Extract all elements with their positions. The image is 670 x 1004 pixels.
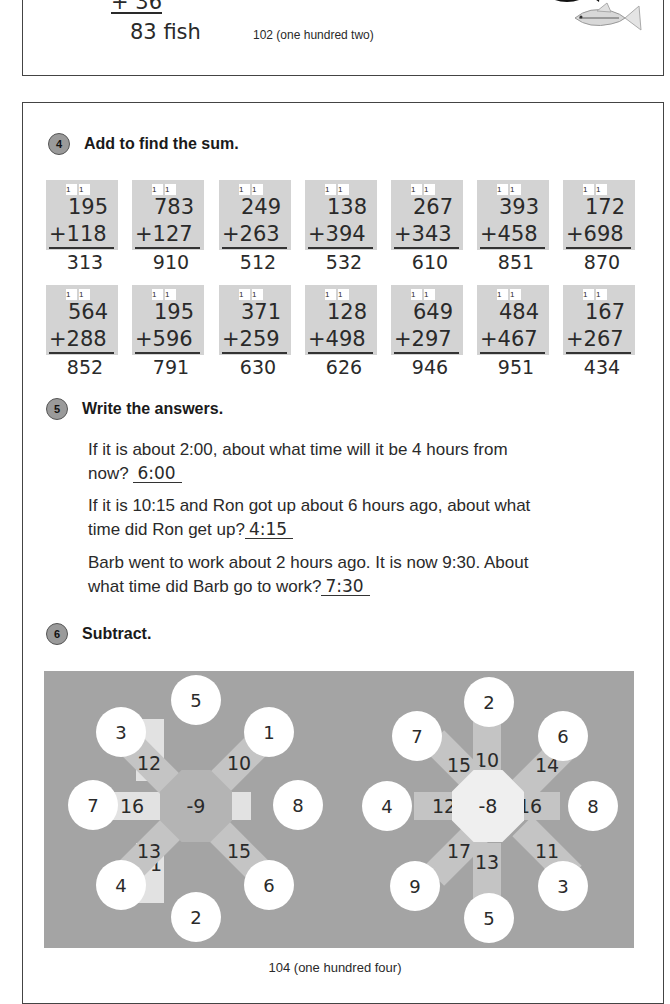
- total-value: 83 fish: [130, 20, 201, 44]
- answer-blank[interactable]: 4:15: [245, 520, 293, 539]
- word-problem-1: If it is about 2:00, about what time wil…: [88, 438, 508, 486]
- spoke-nw-value: 12: [137, 752, 161, 774]
- sum-line: [566, 247, 631, 249]
- sum-line: [394, 352, 459, 354]
- carry-digit: 1: [596, 184, 607, 195]
- addend-bottom: +498: [308, 327, 366, 351]
- sum-answer[interactable]: 791: [132, 356, 204, 378]
- sum-answer[interactable]: 852: [46, 356, 118, 378]
- sum-line: [394, 247, 459, 249]
- petal-w[interactable]: 4: [362, 781, 412, 831]
- petal-n[interactable]: 2: [464, 677, 514, 727]
- sum-answer[interactable]: 851: [477, 251, 549, 273]
- addend-value: + 36: [111, 0, 162, 14]
- carry-digit: 1: [252, 184, 263, 195]
- carry-digit: 1: [152, 184, 163, 195]
- sum-answer[interactable]: 313: [46, 251, 118, 273]
- carry-digit: 1: [66, 289, 77, 300]
- carry-digit: 1: [424, 184, 435, 195]
- addend-bottom: +118: [49, 222, 107, 246]
- addend-bottom: +267: [566, 327, 624, 351]
- spoke-se-value: 11: [535, 840, 559, 862]
- sum-answer[interactable]: 532: [305, 251, 377, 273]
- tetra-fish-icon: [571, 2, 646, 34]
- petal-n[interactable]: 5: [171, 675, 221, 725]
- addition-problem: 11 128 +498 626: [305, 285, 377, 378]
- answer-blank[interactable]: 6:00: [133, 464, 181, 483]
- exercise-5-header: 5 Write the answers.: [46, 398, 223, 420]
- addend-bottom: +698: [566, 222, 624, 246]
- carry-digit: 1: [338, 289, 349, 300]
- carry-digit: 1: [583, 289, 594, 300]
- sum-line: [135, 247, 200, 249]
- petal-w[interactable]: 7: [68, 780, 118, 830]
- addend-top: 649: [413, 300, 453, 324]
- page-number-bottom: 104 (one hundred four): [0, 960, 670, 975]
- sum-line: [566, 352, 631, 354]
- addition-problem: 11 393 +458 851: [477, 180, 549, 273]
- carry-digit: 1: [338, 184, 349, 195]
- addition-problem: 11 267 +343 610: [391, 180, 463, 273]
- question-text: now?: [88, 464, 129, 483]
- sum-line: [480, 352, 545, 354]
- carry-digit: 1: [152, 289, 163, 300]
- spoke-ne-value: 10: [227, 752, 251, 774]
- sum-answer[interactable]: 610: [391, 251, 463, 273]
- sum-answer[interactable]: 434: [563, 356, 635, 378]
- addition-problem: 11 371 +259 630: [219, 285, 291, 378]
- petal-ne[interactable]: 1: [244, 707, 294, 757]
- answer-blank[interactable]: 7:30: [321, 577, 369, 596]
- sum-answer[interactable]: 951: [477, 356, 549, 378]
- page-number-top: 102 (one hundred two): [253, 28, 374, 42]
- addend-top: 371: [241, 300, 281, 324]
- exercise-4-badge: 4: [48, 133, 70, 155]
- carry-digit: 1: [424, 289, 435, 300]
- subtraction-wheel-2: 10 13 12 16 15 14 17 11 -8 2 6 8 3 5 9 4…: [340, 671, 635, 948]
- petal-sw[interactable]: 4: [96, 860, 146, 910]
- addend-top: 172: [585, 195, 625, 219]
- sum-answer[interactable]: 870: [563, 251, 635, 273]
- addend-top: 267: [413, 195, 453, 219]
- question-text: If it is about 2:00, about what time wil…: [88, 438, 508, 462]
- carry-digit: 1: [497, 184, 508, 195]
- sum-answer[interactable]: 946: [391, 356, 463, 378]
- petal-s[interactable]: 2: [171, 892, 221, 942]
- subtraction-panel: 14 11 16 17 12 10 13 15 -9 5 1 8 6 2 4 7…: [44, 671, 634, 948]
- addition-problem: 11 484 +467 951: [477, 285, 549, 378]
- petal-ne[interactable]: 6: [538, 711, 588, 761]
- petal-sw[interactable]: 9: [390, 861, 440, 911]
- addition-problem: 11 195 +596 791: [132, 285, 204, 378]
- petal-s[interactable]: 5: [464, 893, 514, 943]
- addition-problem: 11 564 +288 852: [46, 285, 118, 378]
- addend-top: 128: [327, 300, 367, 324]
- petal-se[interactable]: 3: [538, 861, 588, 911]
- exercise-6-title: Subtract.: [82, 625, 151, 643]
- sum-line: [308, 247, 373, 249]
- petal-nw[interactable]: 3: [96, 707, 146, 757]
- addition-problem: 11 138 +394 532: [305, 180, 377, 273]
- carry-digit: 1: [596, 289, 607, 300]
- addend-top: 195: [154, 300, 194, 324]
- addend-top: 138: [327, 195, 367, 219]
- addition-problem: 11 167 +267 434: [563, 285, 635, 378]
- sum-answer[interactable]: 910: [132, 251, 204, 273]
- spoke-sw-value: 17: [447, 840, 471, 862]
- sum-answer[interactable]: 626: [305, 356, 377, 378]
- sum-answer[interactable]: 630: [219, 356, 291, 378]
- addend-bottom: +458: [480, 222, 538, 246]
- petal-se[interactable]: 6: [244, 860, 294, 910]
- carry-digit: 1: [510, 184, 521, 195]
- carry-digit: 1: [252, 289, 263, 300]
- addend-bottom: +596: [135, 327, 193, 351]
- carry-digit: 1: [497, 289, 508, 300]
- petal-e[interactable]: 8: [568, 781, 618, 831]
- carry-digit: 1: [79, 184, 90, 195]
- sum-answer[interactable]: 512: [219, 251, 291, 273]
- spoke-sw-value: 13: [137, 840, 161, 862]
- exercise-4-header: 4 Add to find the sum.: [48, 133, 239, 155]
- carry-digit: 1: [66, 184, 77, 195]
- petal-e[interactable]: 8: [273, 780, 323, 830]
- carry-digit: 1: [325, 289, 336, 300]
- petal-nw[interactable]: 7: [392, 711, 442, 761]
- exercise-6-header: 6 Subtract.: [46, 623, 151, 645]
